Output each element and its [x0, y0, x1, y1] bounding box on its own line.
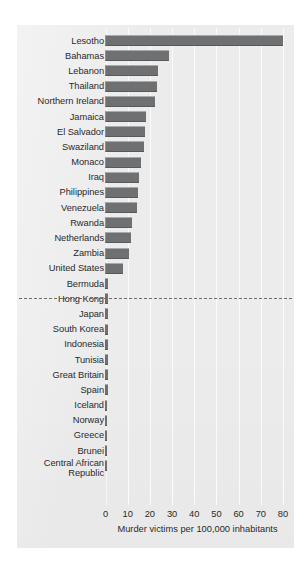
bar-row: Rwanda [0, 215, 307, 230]
bar [105, 278, 108, 289]
bar [105, 35, 283, 46]
bar [105, 369, 108, 380]
bar [105, 65, 158, 76]
murder-rate-bar-chart: LesothoBahamasLebanonThailandNorthern Ir… [0, 0, 307, 567]
bar-row: Brunei [0, 443, 307, 458]
category-label: Thailand [18, 81, 104, 91]
x-axis-title-text: Murder victims per 100,000 inhabitants [29, 523, 277, 535]
category-label: Jamaica [18, 112, 104, 122]
bar [105, 172, 139, 183]
category-label: Swaziland [18, 142, 104, 152]
bar [105, 50, 169, 61]
category-label: Spain [18, 385, 104, 395]
category-label: Monaco [18, 157, 104, 167]
bar-track [105, 157, 141, 168]
bar-track [105, 96, 155, 107]
category-label: Bahamas [18, 51, 104, 61]
bar-row: Central African Republic [0, 458, 307, 473]
bar [105, 445, 107, 456]
category-label: Indonesia [18, 339, 104, 349]
x-tick-label-20: 20 [145, 508, 155, 520]
bar-track [105, 430, 107, 441]
bar [105, 81, 157, 92]
bar-row: Tunisia [0, 352, 307, 367]
bar-row: Iraq [0, 170, 307, 185]
bar [105, 354, 108, 365]
bar-row: Iceland [0, 398, 307, 413]
x-tick-label-40: 40 [189, 508, 199, 520]
x-tick-label-0: 0 [103, 508, 108, 520]
bar-track [105, 400, 107, 411]
bar-track [105, 217, 132, 228]
bar-track [105, 111, 146, 122]
bar-row: Zambia [0, 246, 307, 261]
x-tick-label-30: 30 [167, 508, 177, 520]
bar-track [105, 187, 138, 198]
bar [105, 400, 107, 411]
bar-row: Japan [0, 306, 307, 321]
bar [105, 187, 138, 198]
bar [105, 263, 123, 274]
bar [105, 157, 141, 168]
bar-row: Bahamas [0, 48, 307, 63]
bar-track [105, 35, 283, 46]
bar-row: South Korea [0, 322, 307, 337]
bar [105, 248, 129, 259]
bar-row: Lesotho [0, 33, 307, 48]
bar-rows: LesothoBahamasLebanonThailandNorthern Ir… [0, 33, 307, 473]
category-label: Rwanda [18, 218, 104, 228]
category-label: Lesotho [18, 36, 104, 46]
category-label: Central African Republic [18, 459, 104, 478]
dashed-separator [19, 298, 292, 299]
bar [105, 126, 145, 137]
bar-row: Swaziland [0, 139, 307, 154]
bar [105, 384, 108, 395]
bar [105, 96, 155, 107]
bar-track [105, 384, 108, 395]
category-label: Venezuela [18, 203, 104, 213]
x-axis-title: Murder victims per 100,000 inhabitants [0, 523, 307, 535]
category-label: Philippines [18, 187, 104, 197]
bar-row: United States [0, 261, 307, 276]
category-label: Zambia [18, 248, 104, 258]
category-label: Northern Ireland [18, 96, 104, 106]
category-label: United States [18, 263, 104, 273]
bar-track [105, 415, 107, 426]
category-label: Norway [18, 415, 104, 425]
x-tick-label-60: 60 [233, 508, 243, 520]
bar-track [105, 445, 107, 456]
category-label: Iceland [18, 400, 104, 410]
bar-row: Philippines [0, 185, 307, 200]
bar [105, 324, 108, 335]
bar-row: Norway [0, 413, 307, 428]
bar-track [105, 202, 137, 213]
category-label: Great Britain [18, 370, 104, 380]
bar-track [105, 263, 123, 274]
bar-track [105, 308, 108, 319]
bar-row: Spain [0, 382, 307, 397]
bar-row: Bermuda [0, 276, 307, 291]
category-label: Bermuda [18, 279, 104, 289]
bar [105, 460, 107, 471]
x-tick-label-70: 70 [256, 508, 266, 520]
x-tick-label-50: 50 [211, 508, 221, 520]
bar-track [105, 141, 144, 152]
bar-track [105, 369, 108, 380]
category-label: Iraq [18, 172, 104, 182]
x-tick-label-80: 80 [278, 508, 288, 520]
bar [105, 111, 146, 122]
bar-track [105, 172, 139, 183]
bar-row: Great Britain [0, 367, 307, 382]
bar-track [105, 460, 107, 471]
bar-track [105, 324, 108, 335]
bar-row: El Salvador [0, 124, 307, 139]
bar [105, 141, 144, 152]
bar-row: Netherlands [0, 230, 307, 245]
category-label: Greece [18, 430, 104, 440]
category-label: Lebanon [18, 66, 104, 76]
category-label: Netherlands [18, 233, 104, 243]
bar-track [105, 248, 129, 259]
bar [105, 430, 107, 441]
bar [105, 308, 108, 319]
category-label: Brunei [18, 446, 104, 456]
